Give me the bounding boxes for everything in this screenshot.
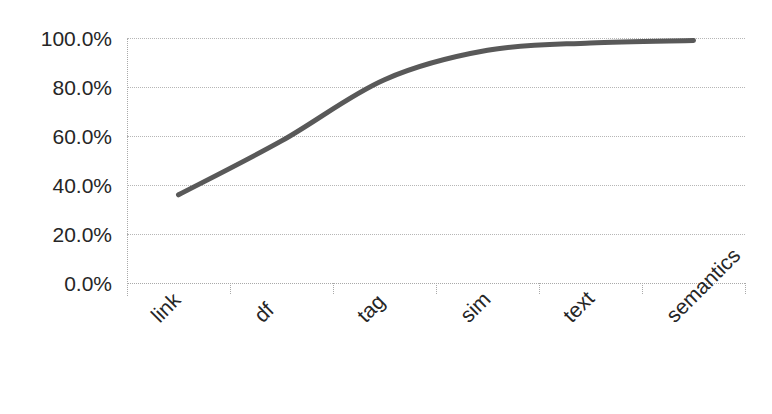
x-axis-category-labels: linkdftagsimtextsemantics	[0, 0, 772, 414]
x-axis-category-label-link: link	[147, 289, 184, 326]
x-axis-category-label-tag: tag	[353, 290, 388, 325]
x-axis-category-label-text: text	[559, 287, 598, 326]
x-axis-category-label-semantics: semantics	[662, 244, 744, 326]
chart-container: 0.0%20.0%40.0%60.0%80.0%100.0% linkdftag…	[0, 0, 772, 414]
x-axis-category-label-df: df	[250, 299, 277, 326]
x-axis-category-label-sim: sim	[456, 288, 494, 326]
